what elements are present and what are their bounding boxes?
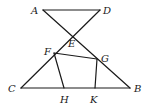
label-G: G xyxy=(101,53,109,64)
label-A: A xyxy=(30,5,38,16)
label-B: B xyxy=(133,83,141,94)
segment-AB xyxy=(43,10,130,88)
label-E: E xyxy=(67,38,76,49)
geometry-diagram: A D E F G C B H K xyxy=(0,0,153,109)
segment-FH xyxy=(54,53,64,88)
labels-group: A D E F G C B H K xyxy=(8,5,141,105)
label-F: F xyxy=(43,46,52,57)
label-D: D xyxy=(102,5,111,16)
label-C: C xyxy=(8,83,16,94)
label-K: K xyxy=(89,94,98,105)
segments-group xyxy=(21,10,130,88)
segment-GK xyxy=(95,59,97,88)
segment-FG xyxy=(54,53,97,59)
label-H: H xyxy=(59,94,69,105)
